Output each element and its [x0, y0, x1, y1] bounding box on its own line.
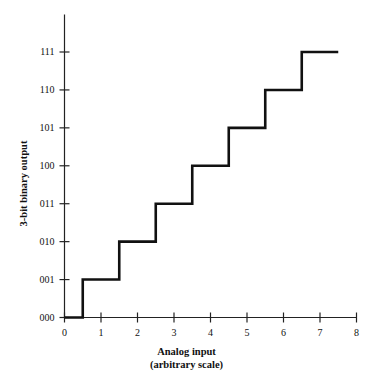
y-tick-label-100: 100	[29, 161, 55, 171]
x-tick-label-2: 2	[128, 328, 148, 338]
y-tick-label-101: 101	[29, 123, 55, 133]
y-tick-label-001: 001	[29, 275, 55, 285]
x-axis-title-line1: Analog input	[0, 345, 373, 358]
y-axis-title: 3-bit binary output	[18, 114, 29, 254]
x-tick-label-6: 6	[274, 328, 294, 338]
x-tick-label-7: 7	[310, 328, 330, 338]
x-axis-title: Analog input (arbitrary scale)	[0, 345, 373, 371]
y-tick-label-010: 010	[29, 237, 55, 247]
x-tick-label-4: 4	[201, 328, 221, 338]
x-tick-label-8: 8	[347, 328, 367, 338]
x-axis-title-line2: (arbitrary scale)	[0, 358, 373, 371]
y-tick-label-011: 011	[29, 199, 55, 209]
quantization-staircase-figure: 000001010011100101110111 012345678 3-bit…	[0, 0, 373, 382]
x-tick-label-3: 3	[164, 328, 184, 338]
y-tick-label-000: 000	[29, 313, 55, 323]
staircase-line	[65, 52, 339, 318]
y-tick-label-111: 111	[29, 47, 55, 57]
y-tick-label-110: 110	[29, 85, 55, 95]
x-tick-label-1: 1	[91, 328, 111, 338]
x-tick-label-5: 5	[237, 328, 257, 338]
x-tick-label-0: 0	[55, 328, 75, 338]
axis-ticks-group	[60, 52, 357, 323]
plot-canvas	[0, 0, 373, 382]
